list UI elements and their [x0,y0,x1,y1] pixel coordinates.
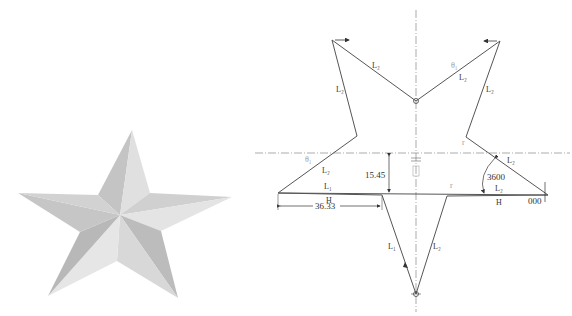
edge-label-right-lower: L₂ [495,184,503,193]
angle-mark-right-inner: r [462,138,465,147]
dim-right-end: 000 [528,196,542,206]
edge-label-right-upper: L₂ [507,156,515,165]
edge-label-left-lower: L₁ [324,182,332,191]
angle-mark-bottom-right: r [450,181,453,190]
edge-label-left-upper: L₂ [322,166,330,175]
dim-height-offset: 15.45 [365,170,386,180]
angle-mark-left: θ₁ [305,155,312,164]
baseline-label-left: H [326,196,332,205]
figure-canvas: L₂ L₂ L₂ L₂ L₂ L₁ L₂ L₂ L₁ L₂ θ₁ θ₁ r r … [0,0,572,316]
angle-mark-top-right: θ₁ [451,61,458,70]
pattern-drawing: L₂ L₂ L₂ L₂ L₂ L₁ L₂ L₂ L₁ L₂ θ₁ θ₁ r r … [255,10,570,312]
edge-label-top-left-inner: L₂ [372,61,380,70]
edge-label-top-left-outer: L₂ [336,85,344,94]
edge-label-top-right-inner: L₂ [459,73,467,82]
edge-label-bottom-left: L₁ [388,242,396,251]
edge-label-bottom-right: L₂ [433,242,441,251]
shaded-star-3d [18,130,232,298]
baseline-label-right: H [496,198,502,207]
edge-label-top-right-outer: L₂ [486,85,494,94]
dim-angle: 3600 [487,172,506,182]
